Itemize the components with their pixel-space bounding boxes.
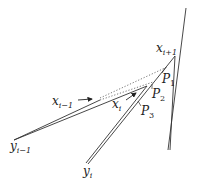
label-sub: 1 [170,79,175,88]
label-y-i-minus-1: yi−1 [10,140,31,155]
label-p1: P1 [162,73,175,88]
label-sub: i−1 [17,146,31,155]
label-p3: P3 [141,105,154,120]
label-y-i: yi [83,165,92,180]
label-sub: i [119,104,122,113]
label-base: x [156,41,163,55]
label-sub: i−1 [59,101,73,110]
label-base: y [10,139,17,153]
label-x-i: xi [112,98,121,113]
label-base: y [83,164,90,178]
label-base: P [152,87,160,101]
label-x-i-plus-1: xi+1 [156,42,177,57]
label-base: x [52,94,59,108]
label-x-i-minus-1: xi−1 [52,95,73,110]
diagram-lines [0,0,197,190]
label-base: P [141,104,149,118]
arrow-x-i-minus-1 [78,99,92,100]
yim1-xi-line-a [14,86,147,140]
diagram-canvas: xi+1 xi−1 xi yi−1 yi P1 P2 P3 [0,0,197,190]
label-base: x [112,97,119,111]
label-sub: i [90,171,93,180]
label-p2: P2 [152,88,165,103]
label-base: P [162,72,170,86]
dotted-line-lower [100,82,153,100]
label-sub: 3 [149,111,154,120]
label-sub: 2 [160,94,165,103]
label-sub: i+1 [163,48,177,57]
